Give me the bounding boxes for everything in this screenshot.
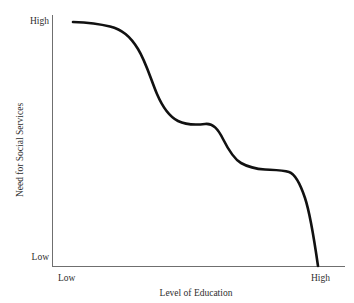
x-axis-tick-low: Low	[58, 273, 76, 283]
y-axis-title: Need for Social Services	[15, 103, 25, 197]
x-axis-title: Level of Education	[160, 288, 233, 298]
y-axis-tick-low: Low	[32, 252, 50, 262]
chart-figure: High Low Low High Need for Social Servic…	[0, 0, 354, 303]
y-axis-tick-high: High	[30, 16, 49, 26]
x-axis-tick-high: High	[311, 273, 330, 283]
